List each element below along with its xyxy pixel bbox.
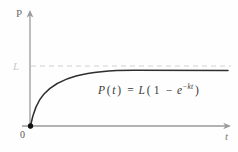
equation-one: 1 [152,84,161,96]
origin-dot [28,123,33,128]
origin-label: 0 [20,130,25,140]
equation-equals: = [123,84,139,96]
equation-group-close: ) [193,84,200,96]
equation-exponent: −kt [182,82,193,91]
plot-canvas [0,0,238,152]
exponential-growth-figure: P t L 0 P(t) = L(1 − e−kt) [0,0,238,152]
equation-minus: − [161,84,177,96]
asymptote-label: L [13,61,19,72]
growth-curve [31,70,229,126]
equation-paren-close: ) [116,84,123,96]
y-axis-label: P [16,8,22,19]
x-axis-label: t [225,131,228,142]
equation-annotation: P(t) = L(1 − e−kt) [98,85,200,97]
